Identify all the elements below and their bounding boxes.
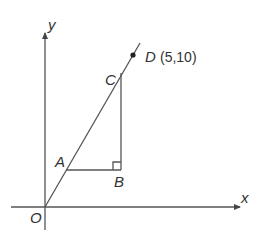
line-od — [45, 43, 140, 207]
origin-label: O — [30, 209, 42, 226]
point-d-coordinates: (5,10) — [160, 49, 197, 65]
point-c-label: C — [105, 71, 116, 88]
x-axis-label: x — [240, 189, 249, 206]
y-axis-label: y — [47, 16, 57, 33]
point-b-label: B — [114, 173, 124, 190]
point-d-label: D — [145, 48, 156, 65]
coordinate-diagram: y x O A B C D (5,10) — [0, 0, 263, 240]
right-angle-marker — [113, 162, 121, 170]
point-a-label: A — [54, 153, 65, 170]
point-d-dot — [130, 52, 135, 57]
